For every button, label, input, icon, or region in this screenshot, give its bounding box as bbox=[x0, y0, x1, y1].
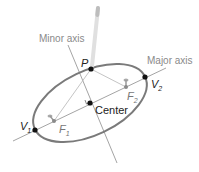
pin-f2-icon bbox=[124, 78, 129, 89]
string-p-f2 bbox=[91, 69, 126, 87]
v2-label: V2 bbox=[151, 78, 162, 92]
major-axis-label: Major axis bbox=[147, 55, 193, 66]
point-v1 bbox=[32, 127, 37, 132]
p-label: P bbox=[81, 57, 89, 69]
pencil-icon bbox=[92, 8, 98, 66]
f2-label: F2 bbox=[127, 90, 138, 104]
pin-f1-icon bbox=[48, 114, 57, 123]
minor-axis-label: Minor axis bbox=[39, 33, 85, 44]
center-label: Center bbox=[95, 104, 128, 116]
point-center bbox=[87, 100, 92, 105]
point-v2 bbox=[142, 74, 147, 79]
v1-label: V1 bbox=[20, 120, 31, 134]
ellipse-diagram: Minor axis Major axis Center P V1 V2 F1 … bbox=[0, 0, 199, 172]
f1-label: F1 bbox=[59, 123, 70, 137]
point-p bbox=[88, 66, 93, 71]
